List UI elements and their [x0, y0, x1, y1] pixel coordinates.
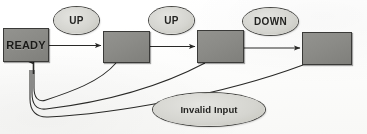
- transition-label-down: DOWN: [254, 16, 287, 27]
- state-node-1[interactable]: [103, 31, 150, 63]
- transition-node-invalid-input[interactable]: Invalid Input: [153, 93, 265, 126]
- state-diagram-canvas: READY UP UP DOWN Invalid Input: [0, 0, 367, 134]
- transition-label-up-2: UP: [164, 15, 179, 26]
- transition-label-invalid-input: Invalid Input: [180, 104, 237, 115]
- transition-node-down[interactable]: DOWN: [243, 8, 298, 35]
- transition-node-up-1[interactable]: UP: [54, 7, 99, 34]
- state-node-ready[interactable]: READY: [3, 28, 49, 62]
- state-node-2[interactable]: [197, 30, 244, 63]
- transition-label-up-1: UP: [69, 15, 84, 26]
- transition-node-up-2[interactable]: UP: [149, 7, 194, 34]
- edge-state1-to-ready-return: [34, 63, 116, 101]
- state-label-ready: READY: [6, 39, 46, 51]
- state-node-3[interactable]: [302, 32, 352, 65]
